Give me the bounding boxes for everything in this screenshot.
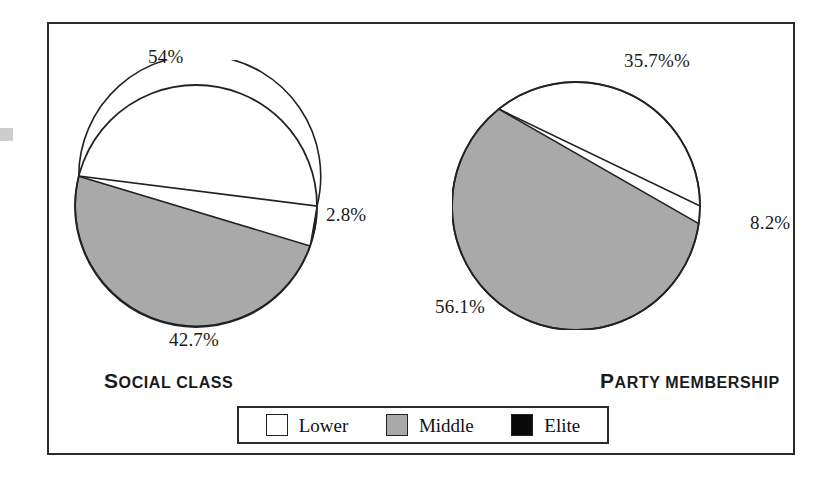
legend-swatch-lower <box>266 414 288 436</box>
legend-swatch-elite <box>511 414 533 436</box>
legend-item-middle: Middle <box>386 414 474 436</box>
legend-item-elite: Elite <box>511 414 580 436</box>
chart-title-social-class-initial: S <box>104 369 119 392</box>
pie-chart-party-membership <box>452 60 752 330</box>
chart-title-party-membership-initial: P <box>600 369 615 392</box>
legend: Lower Middle Elite <box>237 406 609 444</box>
chart-title-social-class: SOCIAL CLASS <box>104 369 233 393</box>
figure-frame: 54% 2.8% 42.7% SOCIAL CLASS 35.7%% 8.2% … <box>47 22 795 455</box>
chart-title-social-class-rest: OCIAL CLASS <box>119 374 234 391</box>
pie-chart-social-class <box>62 60 362 330</box>
pie-slice-social-class-lower <box>79 60 321 206</box>
pie-label-social-class-lower: 54% <box>148 46 183 68</box>
pie-label-social-class-middle: 42.7% <box>169 329 219 351</box>
scan-artifact-smudge <box>0 128 13 141</box>
pie-label-social-class-elite: 2.8% <box>326 204 366 226</box>
pie-label-party-membership-lower: 35.7%% <box>624 50 690 72</box>
chart-title-party-membership: PARTY MEMBERSHIP <box>600 369 780 393</box>
pie-label-party-membership-middle: 56.1% <box>435 296 485 318</box>
legend-item-lower: Lower <box>266 414 349 436</box>
legend-label-lower: Lower <box>299 416 349 435</box>
chart-title-party-membership-rest: ARTY MEMBERSHIP <box>615 374 780 391</box>
legend-label-middle: Middle <box>419 416 474 435</box>
legend-swatch-middle <box>386 414 408 436</box>
legend-label-elite: Elite <box>544 416 580 435</box>
pie-label-party-membership-elite: 8.2% <box>750 212 790 234</box>
